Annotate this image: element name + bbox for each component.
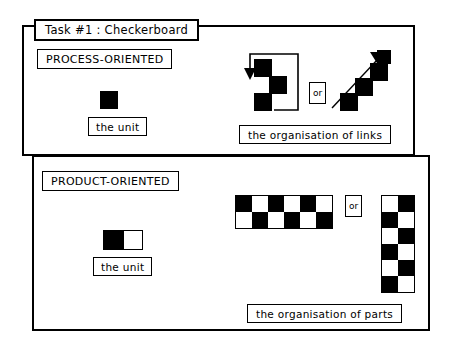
product-unit-black-half	[103, 230, 123, 250]
task-title-text: Task #1 : Checkerboard	[45, 23, 188, 37]
task-title-box: Task #1 : Checkerboard	[34, 19, 199, 41]
organisation-of-links-box: the organisation of links	[239, 125, 391, 144]
links-loop-square-3	[254, 93, 272, 111]
checkerboard-cell	[398, 260, 414, 276]
checkerboard-cell	[236, 196, 252, 212]
checkerboard-cell	[236, 212, 252, 228]
checkerboard-cell	[268, 212, 284, 228]
checkerboard-cell	[382, 228, 398, 244]
checkerboard-cell	[398, 212, 414, 228]
checkerboard-cell	[252, 196, 268, 212]
organisation-of-links-text: the organisation of links	[248, 129, 382, 141]
checkerboard-cell	[316, 196, 332, 212]
checkerboard-cell	[398, 196, 414, 212]
checkerboard-cell	[300, 196, 316, 212]
product-unit-label-text: the unit	[101, 261, 144, 273]
links-diagonal-square-3	[370, 63, 388, 81]
product-unit-icon	[103, 230, 143, 250]
process-or-box: or	[309, 82, 326, 104]
links-loop-square-1	[254, 59, 272, 77]
process-unit-label-box: the unit	[88, 117, 147, 136]
product-oriented-tag: PRODUCT-ORIENTED	[42, 171, 179, 191]
checkerboard-cell	[284, 196, 300, 212]
product-or-label: or	[349, 201, 358, 211]
checkerboard-cell	[284, 212, 300, 228]
checkerboard-horizontal	[235, 195, 333, 229]
organisation-of-parts-text: the organisation of parts	[256, 308, 393, 320]
product-oriented-tag-label: PRODUCT-ORIENTED	[51, 175, 170, 188]
checkerboard-cell	[398, 244, 414, 260]
checkerboard-cell	[382, 244, 398, 260]
process-unit-icon	[100, 91, 118, 109]
checkerboard-cell	[382, 276, 398, 292]
links-diagonal-figure	[330, 50, 410, 118]
checkerboard-cell	[398, 276, 414, 292]
checkerboard-vertical	[381, 195, 415, 293]
checkerboard-cell	[252, 212, 268, 228]
checkerboard-cell	[398, 228, 414, 244]
process-unit-label-text: the unit	[96, 121, 139, 133]
links-loop-figure	[240, 50, 302, 118]
checkerboard-cell	[382, 212, 398, 228]
links-diagonal-square-4	[377, 50, 391, 64]
checkerboard-cell	[382, 260, 398, 276]
checkerboard-cell	[382, 196, 398, 212]
product-unit-label-box: the unit	[93, 257, 152, 276]
product-or-box: or	[345, 195, 362, 217]
links-loop-square-2	[269, 76, 287, 94]
product-unit-white-half	[123, 230, 143, 250]
diagram-canvas: Task #1 : Checkerboard PROCESS-ORIENTED …	[0, 0, 451, 351]
process-or-label: or	[313, 88, 322, 98]
process-oriented-tag: PROCESS-ORIENTED	[37, 49, 172, 69]
checkerboard-cell	[268, 196, 284, 212]
organisation-of-parts-box: the organisation of parts	[247, 304, 402, 323]
checkerboard-cell	[316, 212, 332, 228]
process-oriented-tag-label: PROCESS-ORIENTED	[46, 53, 163, 66]
checkerboard-cell	[300, 212, 316, 228]
